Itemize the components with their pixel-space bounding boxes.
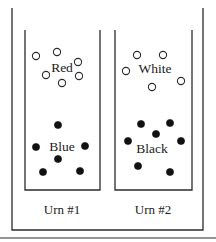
outer-frame-path [12,8,203,230]
urn-2-white-label: White [139,61,172,76]
urn-2-black-ball-5 [177,137,184,144]
urn-1-blue-ball-6 [76,167,83,174]
urn-2-black-label: Black [136,141,168,156]
urn-2-group: White Black Urn #2 [115,30,192,217]
urn-1-red-ball-1 [32,52,39,59]
urn-1-group: Red Blue Urn #1 [25,30,100,217]
urn-diagram-canvas: Red Blue Urn #1 White Black Urn #2 [0,0,216,242]
urn-2-black-ball-6 [134,162,141,169]
urn-1-red-ball-4 [42,71,49,78]
urn-1-blue-label: Blue [49,139,75,154]
urn-2-black-ball-7 [166,168,173,175]
urn-1-blue-ball-3 [81,142,88,149]
urn-1-blue-ball-4 [54,155,61,162]
urn-2-black-ball-2 [166,119,173,126]
urn-2-black-ball-1 [137,120,144,127]
urn-1-blue-ball-1 [54,121,61,128]
urn-2-white-ball-3 [122,67,129,74]
urn-diagram-figure: Red Blue Urn #1 White Black Urn #2 [0,0,216,242]
urn-2-black-ball-4 [124,137,131,144]
urn-1-red-label: Red [51,60,73,75]
urn-2-white-ball-4 [177,77,184,84]
urn-2-white-ball-2 [159,51,166,58]
urn-1-red-ball-6 [58,79,65,86]
urn-1-red-ball-5 [75,72,82,79]
urn-2-container [115,30,192,190]
urn-1-red-ball-2 [53,48,60,55]
urn-1-blue-ball-5 [39,168,46,175]
urn-1-red-ball-3 [74,58,81,65]
urn-1-caption: Urn #1 [44,202,80,217]
urn-2-white-ball-1 [133,51,140,58]
urn-2-black-ball-3 [152,130,159,137]
outer-frame [12,8,203,230]
urn-1-blue-ball-2 [32,143,39,150]
urn-2-white-ball-5 [148,83,155,90]
urn-2-caption: Urn #2 [135,202,171,217]
